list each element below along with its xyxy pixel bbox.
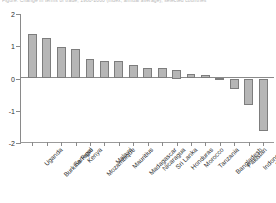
bar bbox=[172, 70, 181, 78]
plot-area: 210-1-2 bbox=[20, 14, 274, 143]
bar bbox=[158, 68, 167, 79]
bar bbox=[244, 79, 253, 105]
bar bbox=[129, 65, 138, 79]
bar bbox=[215, 78, 224, 80]
y-tick-label: 1 bbox=[11, 43, 15, 50]
bar bbox=[42, 38, 51, 79]
x-axis-labels: UgandaBurkina FasoSenegalKenyaMozambique… bbox=[20, 146, 274, 203]
bar bbox=[57, 47, 66, 79]
bar bbox=[143, 68, 152, 79]
bar bbox=[201, 75, 210, 78]
bar bbox=[100, 61, 109, 79]
y-tick-label: 2 bbox=[11, 11, 15, 18]
clipped-title: Figure: Change in terms of trade, 1980-2… bbox=[2, 0, 274, 5]
bar bbox=[86, 59, 95, 79]
chart-figure: Figure: Change in terms of trade, 1980-2… bbox=[0, 0, 276, 203]
bar bbox=[71, 49, 80, 79]
bar bbox=[114, 61, 123, 79]
y-tick-label: 0 bbox=[11, 75, 15, 82]
bar bbox=[187, 74, 196, 79]
bar bbox=[28, 34, 37, 79]
x-tick-label: Uganda bbox=[43, 146, 64, 167]
y-tick bbox=[16, 143, 21, 144]
y-tick-label: -2 bbox=[9, 140, 15, 147]
bar-series bbox=[20, 14, 274, 143]
y-tick-label: -1 bbox=[9, 107, 15, 114]
bar bbox=[259, 79, 268, 131]
bar bbox=[230, 79, 239, 90]
clipped-title-text: Figure: Change in terms of trade, 1980-2… bbox=[2, 0, 274, 3]
